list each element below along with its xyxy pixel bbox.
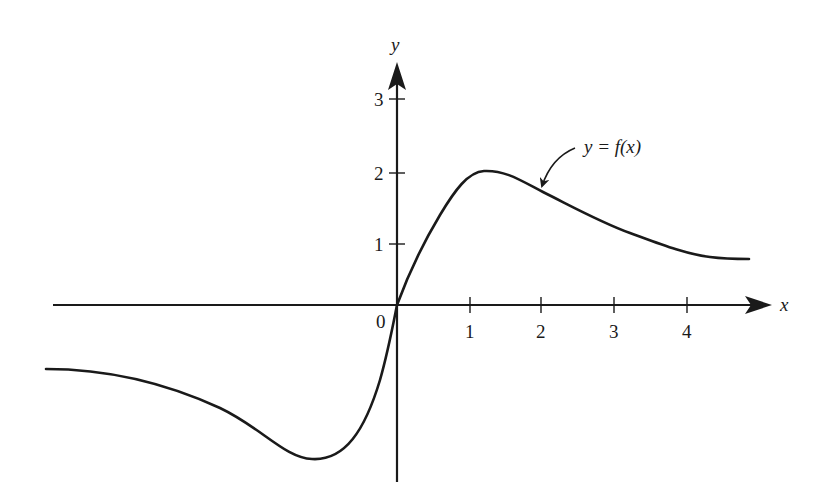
x-tick-label-2: 2 [536, 322, 546, 341]
y-tick-label-2: 2 [374, 164, 384, 183]
x-axis [53, 296, 772, 314]
function-graph [0, 0, 834, 492]
x-tick-label-1: 1 [465, 322, 475, 341]
x-axis-label: x [780, 295, 788, 314]
annotation-arrow [542, 148, 575, 186]
x-tick-label-3: 3 [609, 322, 619, 341]
y-axis-label: y [391, 35, 399, 54]
curve-label: y = f(x) [584, 137, 641, 156]
x-tick-label-4: 4 [682, 322, 692, 341]
y-axis [388, 62, 406, 482]
origin-label: 0 [376, 312, 386, 331]
y-tick-label-3: 3 [374, 90, 384, 109]
y-tick-label-1: 1 [374, 235, 384, 254]
